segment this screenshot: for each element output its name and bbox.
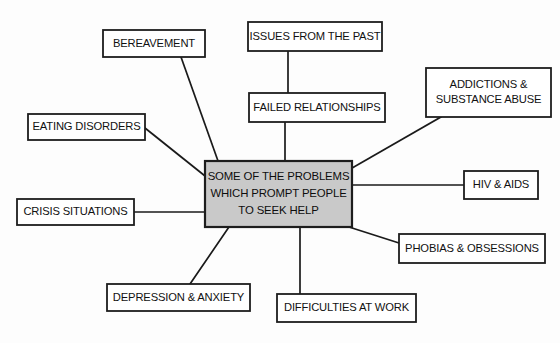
node-issues-from-the-past[interactable]: ISSUES FROM THE PAST xyxy=(248,22,382,51)
connector-eating-disorders xyxy=(145,128,205,176)
node-addictions-substance-abuse[interactable]: ADDICTIONS &SUBSTANCE ABUSE xyxy=(426,68,551,117)
center-node-label-line1: SOME OF THE PROBLEMS xyxy=(208,170,350,182)
connector-phobias-obsessions xyxy=(349,227,399,243)
node-phobias-obsessions[interactable]: PHOBIAS & OBSESSIONS xyxy=(399,234,545,263)
mind-map-diagram: BEREAVEMENTISSUES FROM THE PASTFAILED RE… xyxy=(0,0,560,343)
node-hiv-aids[interactable]: HIV & AIDS xyxy=(464,171,538,199)
node-crisis-situations[interactable]: CRISIS SITUATIONS xyxy=(17,199,134,225)
node-label-addictions-substance-abuse-line2: SUBSTANCE ABUSE xyxy=(436,93,542,105)
center-node-label-line3: TO SEEK HELP xyxy=(238,204,318,216)
connector-bereavement xyxy=(181,57,218,161)
node-depression-anxiety[interactable]: DEPRESSION & ANXIETY xyxy=(107,284,250,311)
connector-addictions-substance-abuse xyxy=(352,117,441,168)
node-label-hiv-aids-line1: HIV & AIDS xyxy=(473,178,529,190)
node-label-depression-anxiety-line1: DEPRESSION & ANXIETY xyxy=(113,291,245,303)
node-label-eating-disorders-line1: EATING DISORDERS xyxy=(32,120,140,132)
center-node-group: SOME OF THE PROBLEMS WHICH PROMPT PEOPLE… xyxy=(205,161,352,227)
node-label-difficulties-at-work-line1: DIFFICULTIES AT WORK xyxy=(284,301,410,313)
center-node-label-line2: WHICH PROMPT PEOPLE xyxy=(210,187,347,199)
node-label-bereavement-line1: BEREAVEMENT xyxy=(113,37,195,49)
node-label-issues-from-the-past-line1: ISSUES FROM THE PAST xyxy=(250,30,381,42)
node-failed-relationships[interactable]: FAILED RELATIONSHIPS xyxy=(249,93,385,122)
connector-depression-anxiety xyxy=(190,227,229,284)
node-label-failed-relationships-line1: FAILED RELATIONSHIPS xyxy=(253,101,380,113)
diagram-canvas: BEREAVEMENTISSUES FROM THE PASTFAILED RE… xyxy=(0,0,560,343)
node-label-phobias-obsessions-line1: PHOBIAS & OBSESSIONS xyxy=(405,242,539,254)
node-bereavement[interactable]: BEREAVEMENT xyxy=(103,30,205,57)
node-label-crisis-situations-line1: CRISIS SITUATIONS xyxy=(23,205,127,217)
node-eating-disorders[interactable]: EATING DISORDERS xyxy=(28,114,145,140)
node-difficulties-at-work[interactable]: DIFFICULTIES AT WORK xyxy=(277,294,416,322)
node-label-addictions-substance-abuse-line1: ADDICTIONS & xyxy=(450,78,528,90)
